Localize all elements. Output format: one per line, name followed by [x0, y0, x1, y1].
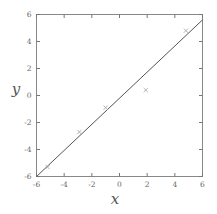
- figure-canvas: -6-4-20246 -6-4-20246 x y: [0, 0, 217, 214]
- y-axis-label: y: [7, 80, 25, 98]
- x-axis-ticks: [37, 15, 203, 177]
- y-axis-tick-labels: -6-4-20246: [24, 10, 32, 181]
- x-tick-label: -6: [33, 180, 41, 189]
- y-tick-label: 4: [27, 37, 32, 46]
- plot-frame: [37, 15, 203, 177]
- plot-area: -6-4-20246 -6-4-20246: [0, 0, 217, 214]
- y-axis-ticks: [37, 15, 203, 177]
- x-tick-label: 2: [145, 180, 150, 189]
- x-tick-label: 0: [117, 180, 122, 189]
- data-point-marker: [144, 88, 148, 92]
- x-tick-label: -4: [61, 180, 69, 189]
- y-tick-label: 0: [27, 91, 32, 100]
- y-tick-label: -2: [24, 118, 32, 127]
- y-tick-label: 6: [27, 10, 32, 19]
- data-series-group: [37, 20, 203, 177]
- x-axis-label: x: [105, 190, 125, 208]
- x-tick-label: 6: [200, 180, 205, 189]
- data-point-marker: [104, 106, 108, 110]
- data-point-marker: [77, 130, 81, 134]
- y-tick-label: -6: [24, 172, 32, 181]
- series-line: [37, 20, 203, 177]
- x-tick-label: -2: [88, 180, 96, 189]
- x-tick-label: 4: [172, 180, 177, 189]
- data-point-marker: [184, 29, 188, 33]
- y-tick-label: 2: [27, 64, 32, 73]
- y-tick-label: -4: [24, 145, 32, 154]
- x-axis-tick-labels: -6-4-20246: [33, 180, 205, 189]
